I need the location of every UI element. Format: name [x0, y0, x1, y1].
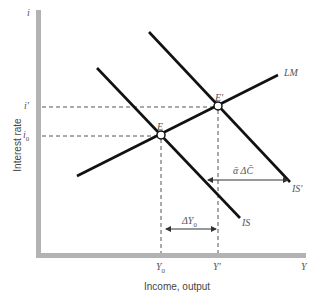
equilibrium-point-e-prime	[214, 102, 222, 110]
lm-curve-label: LM	[284, 68, 298, 78]
equilibrium-point-e	[157, 131, 165, 139]
y-tick-i-prime: i'	[24, 101, 29, 111]
alpha-delta-c-label: ᾱ ΔC̄	[233, 166, 253, 176]
delta-y0-label: ΔY0	[182, 216, 197, 230]
x-axis	[36, 253, 306, 258]
point-e-prime-label: E'	[215, 93, 223, 103]
is-curve-label: IS	[242, 218, 250, 228]
y-tick-i0: i0	[23, 130, 29, 144]
y-axis-symbol: i	[27, 8, 30, 18]
is-prime-curve-label: IS'	[292, 184, 302, 194]
islm-plot	[0, 0, 316, 294]
x-tick-y-prime: Y'	[213, 262, 221, 272]
islm-diagram: i Y i' i0 Y0 Y' LM IS IS' E E' ΔY0 ᾱ ΔC̄…	[0, 0, 316, 294]
lm-curve	[77, 75, 278, 176]
point-e-label: E	[157, 122, 163, 132]
y-axis-title: Interest rate	[13, 105, 23, 185]
y-axis	[36, 10, 41, 258]
is-curve	[97, 68, 240, 218]
x-tick-y0: Y0	[156, 262, 165, 276]
x-axis-title: Income, output	[144, 282, 210, 292]
x-axis-symbol: Y	[301, 262, 307, 272]
